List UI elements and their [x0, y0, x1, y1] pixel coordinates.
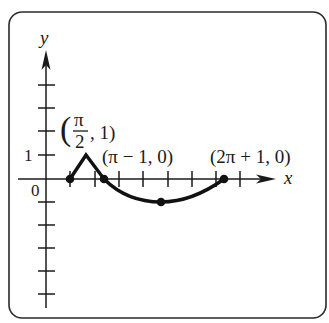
y-tick-label-1: 1: [24, 146, 33, 165]
label-2pi-plus-1: (2π + 1, 0): [210, 146, 290, 168]
origin-label: 0: [31, 181, 40, 200]
y-axis-label: y: [38, 27, 49, 48]
peak-label-numerator: π: [74, 109, 84, 130]
peak-label-denominator: 2: [75, 131, 85, 152]
peak-label-rest: , 1): [90, 122, 115, 144]
graph-figure: y 1 0 x ( π: [0, 0, 329, 323]
peak-label-open-paren: (: [60, 110, 71, 148]
point-pi-minus-1: [100, 175, 109, 184]
point-start: [66, 175, 75, 184]
point-2pi-plus-1: [220, 175, 229, 184]
x-axis-label: x: [283, 167, 293, 188]
label-pi-minus-1: (π − 1, 0): [102, 146, 173, 168]
point-minimum: [157, 198, 166, 207]
